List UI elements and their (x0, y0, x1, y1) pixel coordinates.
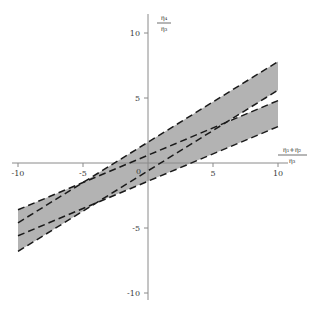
y-axis-label-numerator: η₄ (161, 14, 168, 22)
y-axis-tick-label: -5 (132, 224, 140, 233)
x-axis-tick-label: -10 (12, 169, 25, 178)
y-axis-label-denominator: η₃ (161, 25, 168, 33)
y-axis-tick-label: 5 (135, 94, 140, 103)
y-axis-tick-label: -10 (127, 289, 140, 298)
y-axis-label: η₄ η₃ (157, 14, 171, 33)
origin-label: 0 (136, 167, 141, 176)
x-axis-tick-label: 5 (210, 169, 215, 178)
y-axis-tick-label: 10 (130, 29, 140, 38)
plot-canvas: -10-5510105-5-100 η₄ η₃ η₁+η₂ η₃ (0, 0, 316, 312)
x-axis-label-numerator: η₁+η₂ (283, 146, 302, 154)
chart-figure: -10-5510105-5-100 η₄ η₃ η₁+η₂ η₃ (0, 0, 316, 312)
x-axis-tick-label: -5 (79, 169, 87, 178)
x-axis-tick-label: 10 (273, 169, 283, 178)
x-axis-label-denominator: η₃ (289, 157, 296, 165)
x-axis-label: η₁+η₂ η₃ (278, 146, 307, 165)
